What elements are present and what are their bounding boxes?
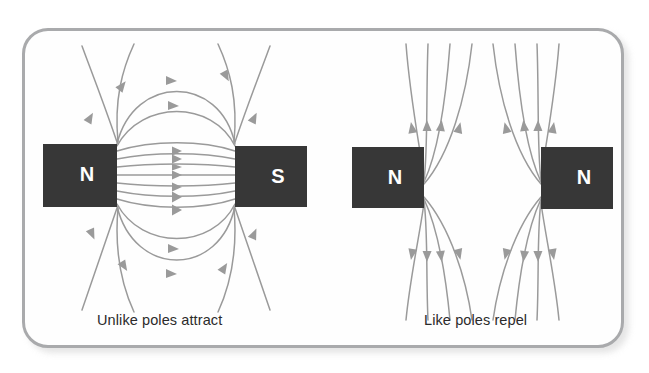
magnetism-figure: .fl { fill: none; stroke: #9a9a9a; strok… <box>0 0 649 373</box>
caption-like-poles: Like poles repel <box>424 312 527 328</box>
panel-like-poles-fieldlines <box>406 44 559 320</box>
cropped-header-sliver <box>0 0 649 14</box>
magnet-left-n <box>43 144 117 207</box>
magnet-left-s <box>235 146 307 207</box>
caption-unlike-poles: Unlike poles attract <box>97 312 222 328</box>
magnet-right-n1 <box>352 147 424 208</box>
magnet-right-n2 <box>541 147 613 209</box>
field-line-canvas: .fl { fill: none; stroke: #9a9a9a; strok… <box>22 28 627 350</box>
magnet-blocks <box>43 144 613 209</box>
